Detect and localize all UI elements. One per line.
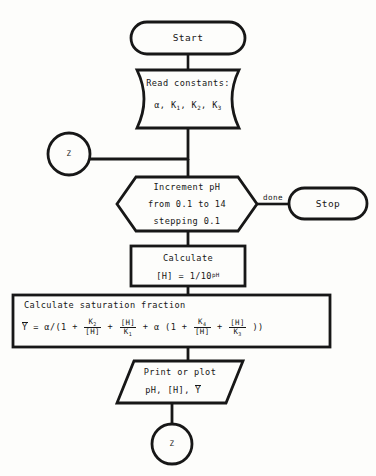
loop-shape [117, 177, 257, 231]
read-constants-shape [137, 70, 239, 128]
calc-saturation-shape [13, 295, 330, 347]
flowchart-canvas [0, 0, 376, 476]
stop-shape [289, 188, 367, 219]
start-shape [131, 22, 245, 54]
output-shape [117, 361, 243, 403]
connector-bottom-shape [152, 424, 192, 464]
connector-top-shape [48, 133, 90, 175]
calc-h-shape [131, 246, 245, 286]
